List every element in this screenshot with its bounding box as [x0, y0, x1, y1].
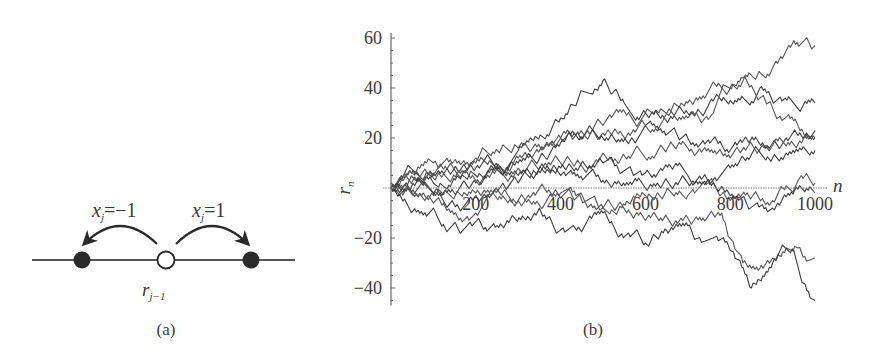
walk-line — [391, 79, 815, 191]
x-tick-label: 600 — [632, 194, 659, 214]
left-jump-label: xj=−1 — [91, 199, 137, 223]
x-tick-label: 400 — [547, 194, 574, 214]
x-tick-label: 1000 — [797, 194, 833, 214]
left-filled-site — [74, 252, 91, 269]
left-jump-arrow — [84, 226, 157, 244]
y-ticks: −40−20204060 — [354, 28, 395, 301]
random-walk-series — [391, 38, 815, 301]
current-position-label: rj−1 — [142, 279, 165, 302]
y-tick-label: 20 — [364, 128, 382, 148]
walk-line — [391, 121, 815, 193]
x-axis-label: n — [833, 175, 843, 196]
caption-b: (b) — [583, 320, 603, 339]
right-jump-arrow — [176, 226, 248, 244]
right-filled-site — [243, 252, 260, 269]
right-jump-label: xj=1 — [191, 199, 225, 223]
panel-a: xj=−1 xj=1 rj−1 (a) — [32, 199, 295, 339]
current-open-site — [158, 252, 175, 269]
y-tick-label: 60 — [364, 28, 382, 48]
y-tick-label: 40 — [364, 78, 382, 98]
y-axis-label: rn — [333, 181, 356, 194]
y-tick-label: −40 — [354, 278, 382, 298]
walk-line — [391, 38, 815, 189]
walk-line — [391, 76, 815, 189]
x-tick-label: 200 — [462, 194, 489, 214]
y-tick-label: −20 — [354, 228, 382, 248]
figure: xj=−1 xj=1 rj−1 (a) −40−20204060 2004006… — [0, 0, 874, 360]
x-tick-label: 800 — [717, 194, 744, 214]
panel-b: −40−20204060 2004006008001000 n rn (b) — [333, 28, 843, 339]
caption-a: (a) — [157, 320, 176, 339]
